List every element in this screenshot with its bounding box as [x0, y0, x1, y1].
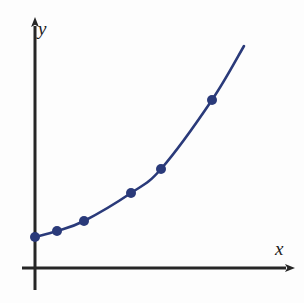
- data-series-curve: [35, 46, 244, 237]
- data-point: [156, 164, 166, 174]
- data-point-markers: [30, 95, 217, 242]
- data-point: [30, 232, 40, 242]
- x-axis-label: x: [275, 239, 283, 258]
- graph-figure: y x: [0, 0, 304, 303]
- data-point: [207, 95, 217, 105]
- data-point: [52, 226, 62, 236]
- y-axis-label: y: [38, 19, 46, 38]
- data-point: [126, 188, 136, 198]
- plot-area: [0, 0, 304, 303]
- axis-group: [22, 26, 286, 290]
- curve-path: [35, 46, 244, 237]
- data-point: [79, 216, 89, 226]
